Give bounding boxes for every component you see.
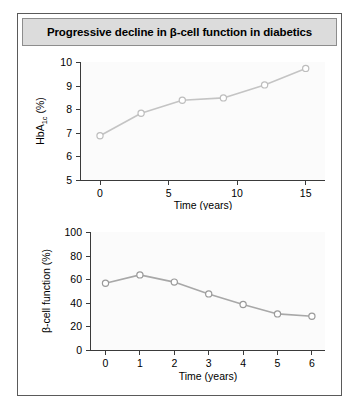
y-tick-label: 5 bbox=[66, 174, 72, 186]
y-tick-label: 60 bbox=[70, 273, 82, 285]
data-point bbox=[262, 82, 268, 88]
y-tick-label: 100 bbox=[64, 226, 82, 238]
beta-cell-x-axis-title: Time (years) bbox=[179, 370, 238, 382]
hba1c-x-axis-title: Time (years) bbox=[174, 199, 233, 210]
figure-title-bar: Progressive decline in β-cell function i… bbox=[22, 18, 337, 46]
x-tick-label: 2 bbox=[171, 357, 177, 369]
chart-panel-hba1c: 5 6 7 8 9 10 0 5 10 15 Time (years) bbox=[18, 50, 343, 210]
x-tick-label: 15 bbox=[300, 187, 312, 199]
x-tick-label: 3 bbox=[206, 357, 212, 369]
data-point bbox=[138, 110, 144, 116]
beta-cell-y-tick-labels: 0 20 40 60 80 100 bbox=[64, 226, 82, 356]
data-point bbox=[179, 97, 185, 103]
svg-text:HbA1c (%): HbA1c (%) bbox=[34, 97, 49, 145]
y-tick-label: 20 bbox=[70, 320, 82, 332]
y-tick-label: 7 bbox=[66, 127, 72, 139]
data-point bbox=[137, 272, 143, 278]
y-axis-title-text: β-cell function (%) bbox=[40, 249, 52, 333]
data-point bbox=[309, 313, 315, 319]
y-tick-label: 8 bbox=[66, 103, 72, 115]
hba1c-x-tick-labels: 0 5 10 15 bbox=[97, 187, 312, 199]
y-tick-label: 0 bbox=[76, 344, 82, 356]
beta-cell-x-tick-labels: 0 1 2 3 4 5 6 bbox=[103, 357, 315, 369]
x-tick-label: 0 bbox=[103, 357, 109, 369]
data-point bbox=[206, 291, 212, 297]
x-tick-label: 1 bbox=[137, 357, 143, 369]
data-point bbox=[102, 280, 108, 286]
hba1c-plot-svg: 5 6 7 8 9 10 0 5 10 15 Time (years) bbox=[18, 50, 343, 210]
data-point bbox=[97, 133, 103, 139]
data-point bbox=[220, 95, 226, 101]
x-tick-label: 4 bbox=[240, 357, 246, 369]
data-point bbox=[303, 65, 309, 71]
hba1c-y-tick-labels: 5 6 7 8 9 10 bbox=[60, 56, 72, 186]
figure-frame: Progressive decline in β-cell function i… bbox=[17, 13, 342, 396]
beta-cell-x-ticks bbox=[106, 351, 312, 356]
hba1c-y-ticks bbox=[76, 63, 81, 181]
beta-cell-y-axis-title: β-cell function (%) bbox=[40, 249, 52, 333]
x-tick-label: 6 bbox=[309, 357, 315, 369]
hba1c-y-axis-title: HbA1c (%) bbox=[34, 97, 49, 145]
y-tick-label: 9 bbox=[66, 80, 72, 92]
x-tick-label: 5 bbox=[166, 187, 172, 199]
y-axis-title-unit: (%) bbox=[34, 97, 46, 116]
data-point bbox=[240, 301, 246, 307]
data-point bbox=[171, 279, 177, 285]
y-tick-label: 80 bbox=[70, 250, 82, 262]
y-tick-label: 10 bbox=[60, 56, 72, 68]
x-tick-label: 10 bbox=[231, 187, 243, 199]
x-tick-label: 5 bbox=[275, 357, 281, 369]
figure-title: Progressive decline in β-cell function i… bbox=[47, 26, 312, 38]
y-tick-label: 6 bbox=[66, 150, 72, 162]
hba1c-x-ticks bbox=[100, 181, 306, 186]
beta-cell-plot-svg: 0 20 40 60 80 100 0 1 2 3 bbox=[18, 214, 343, 392]
hba1c-plot-area bbox=[80, 62, 325, 180]
y-axis-title-main: HbA bbox=[34, 124, 46, 144]
chart-panel-beta-cell: 0 20 40 60 80 100 0 1 2 3 bbox=[18, 214, 343, 392]
data-point bbox=[274, 311, 280, 317]
x-tick-label: 0 bbox=[97, 187, 103, 199]
beta-cell-y-ticks bbox=[86, 233, 91, 351]
y-tick-label: 40 bbox=[70, 297, 82, 309]
